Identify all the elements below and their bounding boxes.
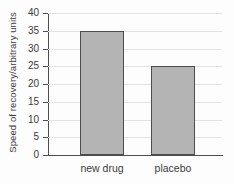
y-axis-title: Speed of recovery/arbitrary units bbox=[7, 8, 18, 158]
y-tick-label-5: 5 bbox=[17, 132, 39, 142]
y-tick-label-0: 0 bbox=[17, 150, 39, 160]
y-tick-mark-25 bbox=[43, 66, 48, 67]
bar-placebo bbox=[151, 66, 195, 155]
x-category-label-new-drug: new drug bbox=[62, 162, 142, 174]
bar-new-drug bbox=[80, 31, 124, 155]
x-axis-line bbox=[48, 155, 223, 156]
y-tick-mark-20 bbox=[43, 84, 48, 85]
y-tick-mark-15 bbox=[43, 102, 48, 103]
gridline-20 bbox=[48, 84, 222, 85]
gridline-35 bbox=[48, 31, 222, 32]
y-tick-mark-10 bbox=[43, 120, 48, 121]
y-tick-label-20: 20 bbox=[17, 79, 39, 89]
gridline-30 bbox=[48, 49, 222, 50]
y-tick-label-30: 30 bbox=[17, 44, 39, 54]
y-tick-label-35: 35 bbox=[17, 26, 39, 36]
y-tick-mark-40 bbox=[43, 13, 48, 14]
y-tick-label-10: 10 bbox=[17, 115, 39, 125]
y-tick-mark-35 bbox=[43, 31, 48, 32]
y-tick-label-25: 25 bbox=[17, 61, 39, 71]
y-tick-mark-30 bbox=[43, 49, 48, 50]
y-tick-mark-0 bbox=[43, 155, 48, 156]
gridline-25 bbox=[48, 66, 222, 67]
bar-chart-figure: Speed of recovery/arbitrary units 051015… bbox=[0, 0, 234, 184]
y-tick-label-40: 40 bbox=[17, 8, 39, 18]
gridline-5 bbox=[48, 137, 222, 138]
x-category-label-placebo: placebo bbox=[133, 162, 213, 174]
y-tick-mark-5 bbox=[43, 137, 48, 138]
gridline-15 bbox=[48, 102, 222, 103]
y-tick-label-15: 15 bbox=[17, 97, 39, 107]
gridline-10 bbox=[48, 120, 222, 121]
gridline-40 bbox=[48, 13, 222, 14]
